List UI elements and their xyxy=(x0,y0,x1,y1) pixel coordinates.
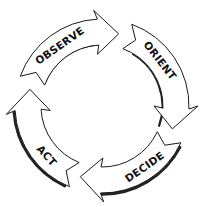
cycle-arrows xyxy=(6,10,198,202)
arrow-orient xyxy=(123,24,198,129)
cycle-labels: OBSERVE ORIENT DECIDE ACT xyxy=(33,24,180,184)
arrow-observe xyxy=(20,10,118,85)
ooda-loop-diagram: OBSERVE ORIENT DECIDE ACT xyxy=(0,0,205,207)
